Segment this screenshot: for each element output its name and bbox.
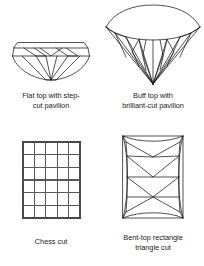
flat-top-step-cut-pavilion-gem <box>0 0 102 86</box>
caption-line-1: Buff top with <box>133 91 173 100</box>
triangle-row-4 <box>126 197 180 212</box>
chess-cut-gem <box>0 133 102 227</box>
buff-top-brilliant-cut-pavilion-gem <box>102 0 204 86</box>
caption-line-2: triangle cut <box>135 243 171 252</box>
pavilion-facet-1 <box>115 33 153 84</box>
caption-line-2: brilliant-cut pavilion <box>122 101 184 110</box>
bent-bottom-edge <box>123 213 183 218</box>
triangle-row-1 <box>126 142 180 157</box>
bent-top-rectangle-triangle-cut-gem <box>102 133 204 227</box>
pavilion-center-v <box>46 56 57 80</box>
pavilion-kite-right <box>153 39 174 84</box>
panel-caption: Buff top with brilliant-cut pavilion <box>105 91 201 110</box>
caption-line-1: Bent-top rectangle <box>123 233 183 242</box>
pavilion-facet-2 <box>126 37 153 84</box>
pavilion-facet-7 <box>153 33 191 84</box>
triangle-row-1-base <box>127 156 179 157</box>
girdle-left-edge <box>13 48 15 56</box>
panel-buff-top-brilliant-cut: Buff top with brilliant-cut pavilion <box>102 0 204 133</box>
panel-caption: Bent-top rectangle triangle cut <box>105 233 201 252</box>
gem-cuts-figure: Flat top with step- cut pavilion <box>0 0 204 266</box>
caption-line-2: cut pavilion <box>33 101 69 110</box>
triangle-row-3 <box>127 177 179 197</box>
panel-caption: Chess cut <box>3 237 99 247</box>
step-facet-right-upper <box>56 48 78 56</box>
panel-chess-cut: Chess cut <box>0 133 102 266</box>
step-facet-left-upper <box>24 48 46 56</box>
table-facet <box>14 43 88 49</box>
girdle-right-edge <box>88 48 90 56</box>
triangle-row-2 <box>127 156 179 177</box>
pavilion-kite-left <box>132 39 153 84</box>
bent-top-edge <box>123 136 183 141</box>
buff-dome-top-arc <box>106 5 200 27</box>
pavilion-facet-6 <box>153 37 180 84</box>
pavilion-outline <box>13 56 90 80</box>
caption-line-1: Flat top with step- <box>22 91 79 100</box>
panel-bent-top-rectangle-triangle-cut: Bent-top rectangle triangle cut <box>102 133 204 266</box>
step-facet-center-upper <box>40 48 62 56</box>
panel-flat-top-step-cut: Flat top with step- cut pavilion <box>0 0 102 133</box>
panel-caption: Flat top with step- cut pavilion <box>3 91 99 110</box>
caption-line-1: Chess cut <box>35 237 67 246</box>
girdle-lower-arc <box>106 27 200 40</box>
